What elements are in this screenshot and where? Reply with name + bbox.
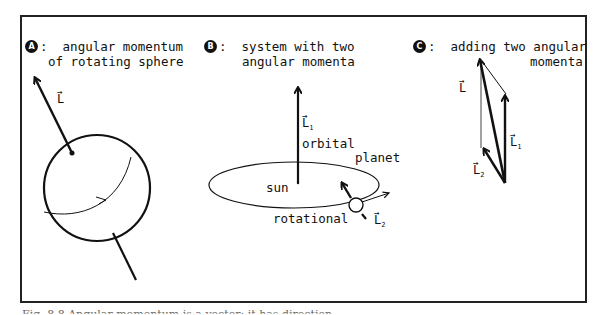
label-sun: sun	[266, 180, 289, 195]
panel-a-vector-l: →L	[57, 93, 64, 105]
panel-a-sphere	[35, 78, 150, 280]
panel-c-vector-l2: →L2	[473, 164, 484, 181]
panel-b-title-line1: : system with two	[219, 39, 354, 54]
panel-b-vector-l2: →L2	[374, 214, 385, 231]
vector-arrow-icon: →	[57, 86, 62, 98]
panel-b-title-line2: angular momenta	[242, 54, 355, 69]
panel-a-badge: A	[25, 40, 38, 53]
panel-b-badge: B	[204, 40, 217, 53]
vector-arrow-icon: →	[302, 110, 307, 122]
panel-c-badge: C	[413, 40, 426, 53]
panel-c-vector-l1: →L1	[510, 136, 521, 153]
panel-c-title-line2: momenta	[530, 54, 583, 69]
vector-arrow-icon: →	[374, 207, 379, 219]
panel-c-vector-l: →L	[459, 82, 466, 94]
panel-a-title-line1: : angular momentum	[40, 39, 183, 54]
panel-c-title-line1: : adding two angular	[428, 39, 586, 54]
label-planet: planet	[355, 150, 400, 165]
label-rotational: rotational	[273, 211, 348, 226]
panel-a-title-line2: of rotating sphere	[48, 54, 183, 69]
panel-b-vector-l1: →L1	[302, 117, 313, 134]
label-orbital: orbital	[302, 136, 355, 151]
vector-arrow-icon: →	[510, 129, 515, 141]
vector-arrow-icon: →	[459, 75, 464, 87]
vector-arrow-icon: →	[473, 157, 478, 169]
